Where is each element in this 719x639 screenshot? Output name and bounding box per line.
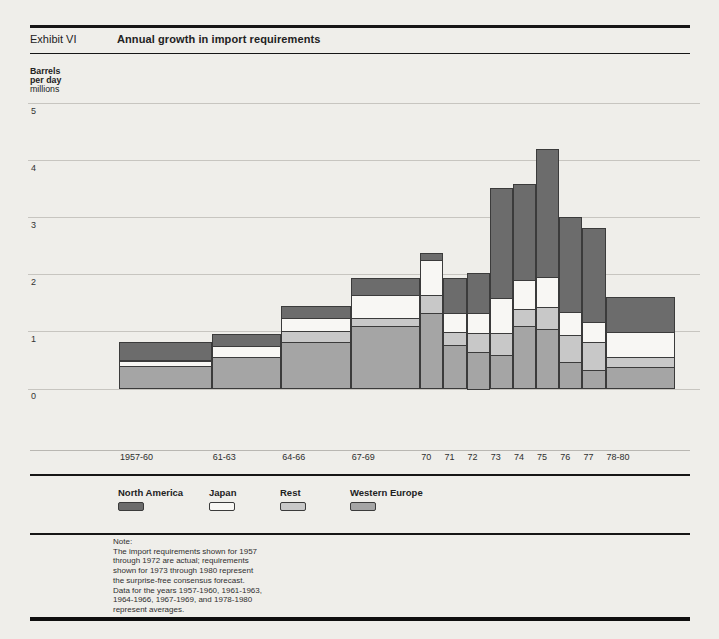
note-line-1: The import requirements shown for 1957 <box>113 547 257 557</box>
bottom-rule <box>30 617 690 621</box>
note-line-4: the surprise-free consensus forecast. <box>113 576 245 586</box>
note-line-2: through 1972 are actual; requirements <box>113 556 249 566</box>
note-block: Note:The import requirements shown for 1… <box>0 0 719 639</box>
note-line-6: 1964-1966, 1967-1969, and 1978-1980 <box>113 595 252 605</box>
note-line-7: represent averages. <box>113 605 184 615</box>
note-line-0: Note: <box>113 537 132 547</box>
note-line-3: shown for 1973 through 1980 represent <box>113 566 253 576</box>
note-line-5: Data for the years 1957-1960, 1961-1963, <box>113 586 262 596</box>
exhibit-page: Exhibit VI Annual growth in import requi… <box>0 0 719 639</box>
